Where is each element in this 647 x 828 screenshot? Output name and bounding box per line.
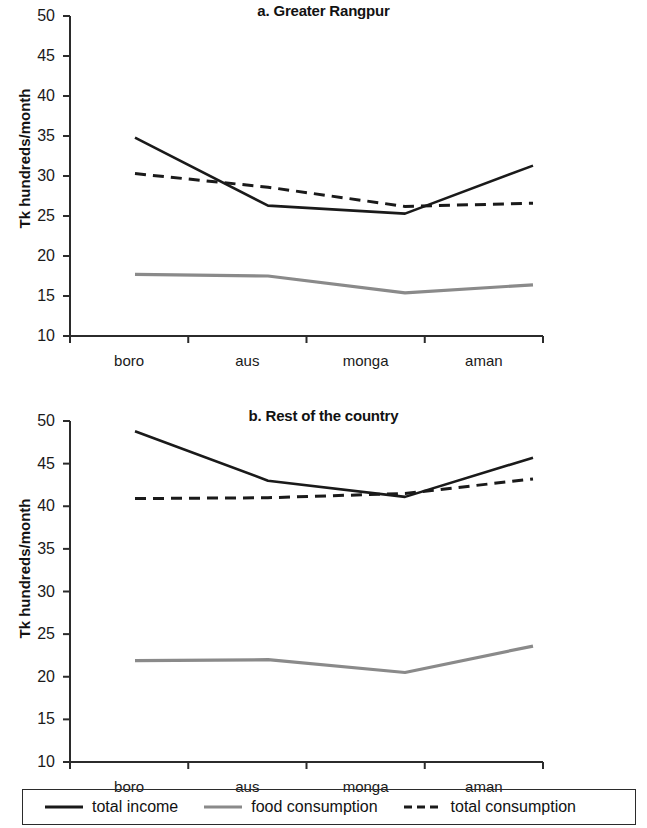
legend-line-swatch-icon bbox=[404, 800, 442, 814]
y-tick-label: 40 bbox=[21, 498, 55, 514]
y-tick-label: 45 bbox=[21, 48, 55, 64]
y-tick-label: 30 bbox=[21, 168, 55, 184]
chart-legend: total incomefood consumptiontotal consum… bbox=[22, 789, 636, 825]
y-tick-label: 40 bbox=[21, 88, 55, 104]
y-tick-label: 50 bbox=[21, 8, 55, 24]
panel-b-plot-area bbox=[0, 400, 647, 780]
y-tick-label: 35 bbox=[21, 541, 55, 557]
figure: a. Greater Rangpur Tk hundreds/month 101… bbox=[0, 0, 647, 828]
series-line-food-consumption bbox=[135, 646, 533, 672]
y-tick-label: 15 bbox=[21, 288, 55, 304]
y-tick-label: 15 bbox=[21, 711, 55, 727]
chart-panel-greater-rangpur: a. Greater Rangpur Tk hundreds/month 101… bbox=[0, 0, 647, 372]
y-tick-label: 25 bbox=[21, 208, 55, 224]
legend-label: food consumption bbox=[251, 798, 377, 816]
y-tick-label: 30 bbox=[21, 584, 55, 600]
y-tick-label: 25 bbox=[21, 626, 55, 642]
legend-label: total consumption bbox=[451, 798, 576, 816]
chart-panel-rest-of-country: b. Rest of the country Tk hundreds/month… bbox=[0, 400, 647, 780]
legend-item-total-income: total income bbox=[45, 798, 178, 816]
y-tick-label: 10 bbox=[21, 328, 55, 344]
legend-item-food-consumption: food consumption bbox=[204, 798, 377, 816]
x-tick-label-monga: monga bbox=[316, 352, 416, 369]
y-tick-label: 35 bbox=[21, 128, 55, 144]
legend-line-swatch-icon bbox=[204, 800, 242, 814]
legend-item-total-consumption: total consumption bbox=[404, 798, 576, 816]
y-tick-label: 50 bbox=[21, 413, 55, 429]
panel-a-plot-area bbox=[0, 0, 647, 372]
y-tick-label: 45 bbox=[21, 456, 55, 472]
x-tick-label-aus: aus bbox=[197, 352, 297, 369]
series-line-total-income bbox=[135, 138, 533, 214]
legend-line-swatch-icon bbox=[45, 800, 83, 814]
series-line-total-income bbox=[135, 431, 533, 497]
y-tick-label: 20 bbox=[21, 669, 55, 685]
x-tick-label-aman: aman bbox=[434, 352, 534, 369]
y-tick-label: 10 bbox=[21, 754, 55, 770]
y-tick-label: 20 bbox=[21, 248, 55, 264]
legend-label: total income bbox=[92, 798, 178, 816]
x-tick-label-boro: boro bbox=[79, 352, 179, 369]
series-line-total-consumption bbox=[135, 174, 533, 207]
series-line-food-consumption bbox=[135, 274, 533, 292]
